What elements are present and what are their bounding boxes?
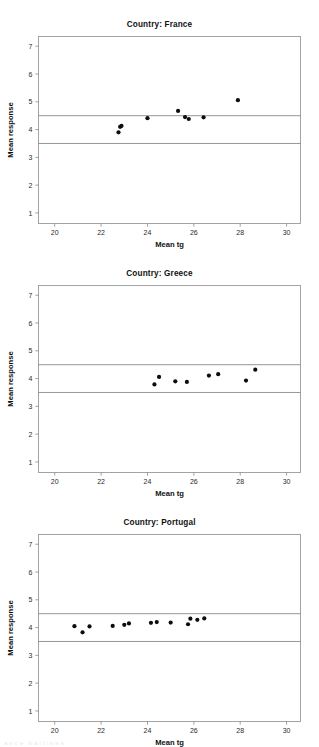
data-point <box>187 117 191 121</box>
x-tick-label: 30 <box>283 478 291 485</box>
data-point <box>244 378 248 382</box>
data-point <box>173 379 177 383</box>
y-tick-label: 5 <box>29 98 33 105</box>
y-tick-label: 7 <box>29 541 33 548</box>
plot-frame <box>39 535 301 722</box>
plot-area: 1234567202224262830Mean tgMean response <box>0 498 319 747</box>
data-point <box>116 130 120 134</box>
data-point <box>236 98 240 102</box>
plot-area: 1234567202224262830Mean tgMean response <box>0 249 319 498</box>
data-point <box>195 618 199 622</box>
data-point-group <box>72 616 206 634</box>
y-tick-label: 3 <box>29 154 33 161</box>
y-tick-label: 4 <box>29 624 33 631</box>
x-axis-title: Mean tg <box>155 738 184 747</box>
x-tick-label: 26 <box>190 727 198 734</box>
x-tick-label: 28 <box>236 478 244 485</box>
x-tick-label: 24 <box>144 727 152 734</box>
y-tick-label: 1 <box>29 708 33 715</box>
data-point <box>207 373 211 377</box>
x-tick-label: 30 <box>283 229 291 236</box>
chart-panel: Country: Portugal1234567202224262830Mean… <box>0 498 319 747</box>
y-tick-label: 2 <box>29 182 33 189</box>
y-tick-label: 7 <box>29 43 33 50</box>
data-point <box>169 620 173 624</box>
data-point-group <box>116 98 240 134</box>
data-point <box>152 382 156 386</box>
data-point <box>253 368 257 372</box>
x-tick-label: 20 <box>51 478 59 485</box>
x-tick-label: 30 <box>283 727 291 734</box>
data-point <box>122 623 126 627</box>
y-tick-label: 3 <box>29 403 33 410</box>
plot-frame <box>39 286 301 473</box>
y-axis-title: Mean response <box>6 600 15 655</box>
x-tick-label: 20 <box>51 727 59 734</box>
footer-artifact-text: ance barlines <box>4 740 66 746</box>
y-tick-label: 4 <box>29 126 33 133</box>
y-tick-label: 5 <box>29 347 33 354</box>
y-tick-label: 2 <box>29 431 33 438</box>
data-point <box>185 380 189 384</box>
y-axis-title: Mean response <box>6 351 15 406</box>
data-point-group <box>152 368 257 387</box>
data-point <box>145 116 149 120</box>
scatter-panel-figure: Country: France1234567202224262830Mean t… <box>0 0 319 747</box>
plot-area: 1234567202224262830Mean tgMean response <box>0 0 319 249</box>
y-tick-label: 6 <box>29 71 33 78</box>
y-tick-label: 7 <box>29 292 33 299</box>
data-point <box>186 622 190 626</box>
y-axis-title: Mean response <box>6 102 15 157</box>
data-point <box>155 620 159 624</box>
chart-panel: Country: France1234567202224262830Mean t… <box>0 0 319 249</box>
data-point <box>119 124 123 128</box>
x-tick-label: 28 <box>236 727 244 734</box>
y-tick-label: 1 <box>29 459 33 466</box>
plot-frame <box>39 37 301 224</box>
data-point <box>80 630 84 634</box>
x-axis-title: Mean tg <box>155 489 184 498</box>
x-tick-label: 28 <box>236 229 244 236</box>
x-tick-label: 22 <box>97 727 105 734</box>
y-tick-label: 5 <box>29 596 33 603</box>
x-tick-label: 24 <box>144 478 152 485</box>
y-tick-label: 1 <box>29 210 33 217</box>
x-tick-label: 22 <box>97 229 105 236</box>
data-point <box>149 621 153 625</box>
x-axis-title: Mean tg <box>155 240 184 249</box>
data-point <box>157 375 161 379</box>
data-point <box>111 624 115 628</box>
y-tick-label: 3 <box>29 652 33 659</box>
data-point <box>201 115 205 119</box>
data-point <box>183 115 187 119</box>
data-point <box>216 372 220 376</box>
y-tick-label: 6 <box>29 569 33 576</box>
y-tick-label: 2 <box>29 680 33 687</box>
data-point <box>176 109 180 113</box>
data-point <box>72 624 76 628</box>
chart-panel: Country: Greece1234567202224262830Mean t… <box>0 249 319 498</box>
x-tick-label: 20 <box>51 229 59 236</box>
data-point <box>188 617 192 621</box>
x-tick-label: 22 <box>97 478 105 485</box>
y-tick-label: 6 <box>29 320 33 327</box>
x-tick-label: 26 <box>190 478 198 485</box>
data-point <box>87 624 91 628</box>
y-tick-label: 4 <box>29 375 33 382</box>
data-point <box>202 616 206 620</box>
x-tick-label: 26 <box>190 229 198 236</box>
x-tick-label: 24 <box>144 229 152 236</box>
data-point <box>127 621 131 625</box>
